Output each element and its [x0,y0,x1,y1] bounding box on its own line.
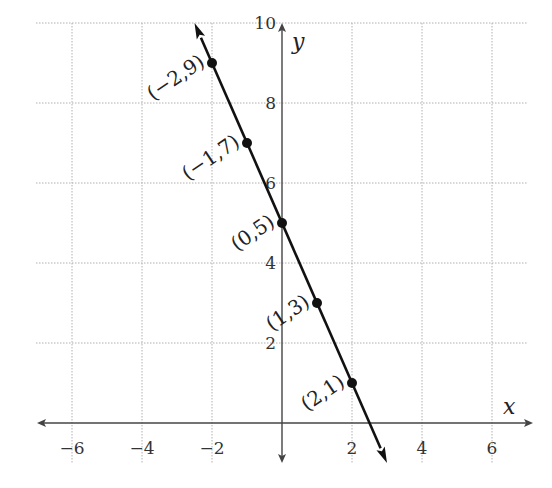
point-label: (−2,9) [142,49,209,105]
y-axis-label: y [291,29,305,54]
point-label: (2,1) [296,369,349,415]
axes [37,23,533,463]
line-bottom-arrow-icon [376,447,387,463]
data-point [347,378,357,388]
x-tick-label: 2 [347,438,358,458]
coordinate-plane-chart: −6−4−2246246810 (−2,9)(−1,7)(0,5)(1,3)(2… [0,0,552,488]
data-point [277,218,287,228]
tick-labels: −6−4−2246246810 [59,13,497,458]
y-tick-label: 8 [265,93,276,113]
data-point [242,138,252,148]
y-tick-label: 10 [254,13,276,33]
x-tick-label: 6 [487,438,498,458]
data-series [195,23,388,463]
point-label: (1,3) [261,289,314,335]
y-tick-label: 4 [265,253,276,273]
point-label: (−1,7) [177,129,244,185]
y-tick-label: 2 [265,333,276,353]
data-point [312,298,322,308]
data-point [207,58,217,68]
point-label: (0,5) [226,209,279,255]
x-tick-label: −2 [199,438,224,458]
line-top-arrow-icon [195,23,206,39]
x-tick-label: 4 [417,438,428,458]
x-tick-label: −4 [129,438,154,458]
point-labels: (−2,9)(−1,7)(0,5)(1,3)(2,1) [142,49,349,415]
x-axis-label: x [503,394,516,419]
x-tick-label: −6 [59,438,84,458]
